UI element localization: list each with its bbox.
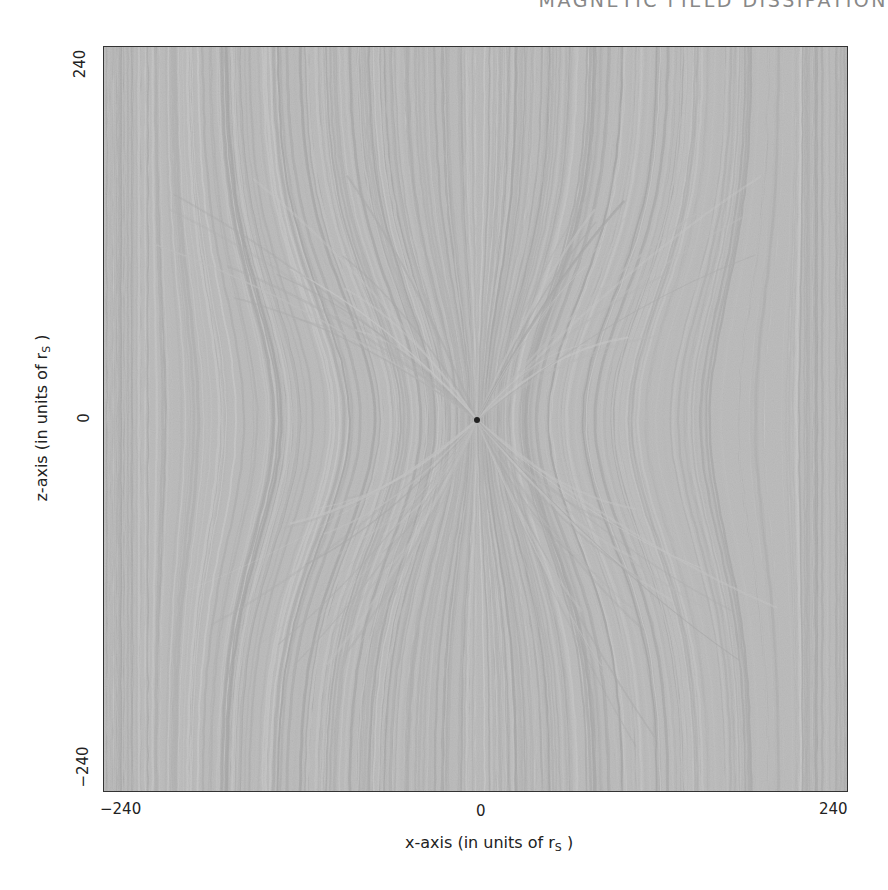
y-tick-zero: 0 (75, 413, 93, 423)
y-tick-max: 240 (71, 50, 89, 79)
y-tick-min: −240 (74, 746, 92, 787)
x-tick-max: 240 (819, 800, 848, 818)
x-tick-zero: 0 (476, 802, 486, 820)
chart-title: MAGNETIC FIELD DISSIPATION (539, 0, 888, 11)
y-axis-label: z-axis (in units of rS ) (32, 334, 53, 501)
x-axis-label: x-axis (in units of rS ) (405, 833, 573, 854)
x-tick-min: −240 (100, 800, 141, 818)
central-object-marker (474, 417, 480, 423)
